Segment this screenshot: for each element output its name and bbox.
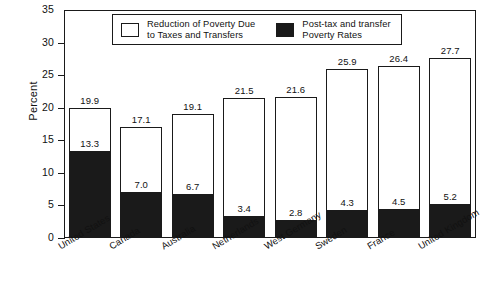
bar-total-value-label: 21.5 xyxy=(235,85,254,96)
y-tick-label: 10 xyxy=(42,166,54,178)
y-axis-title: Percent xyxy=(27,66,39,136)
filled-square-icon xyxy=(276,23,294,37)
legend-line-2: Poverty Rates xyxy=(302,30,390,41)
bar-posttax-value-label: 3.4 xyxy=(237,203,251,214)
open-square-icon xyxy=(121,23,139,37)
bar-posttax-value-label: 5.2 xyxy=(443,191,457,202)
bar-total-value-label: 21.6 xyxy=(286,84,305,95)
legend-line-2: to Taxes and Transfers xyxy=(147,30,255,41)
legend-line-1: Post-tax and transfer xyxy=(302,19,390,30)
bar-posttax-value-label: 13.3 xyxy=(80,138,99,149)
chart-legend: Reduction of Poverty Due to Taxes and Tr… xyxy=(112,14,402,45)
bar-total-value-label: 17.1 xyxy=(132,114,151,125)
y-tick-label: 35 xyxy=(42,3,54,15)
bar-group: 19.913.3 xyxy=(69,10,111,238)
y-tick-label: 5 xyxy=(48,198,54,210)
bar-posttax-value-label: 6.7 xyxy=(186,181,200,192)
bar-posttax-value-label: 2.8 xyxy=(289,207,303,218)
y-tick-label: 30 xyxy=(42,36,54,48)
bar-total-value-label: 27.7 xyxy=(441,45,460,56)
poverty-rates-bar-chart: Percent 05101520253035 19.913.317.17.019… xyxy=(0,0,488,303)
y-tick-label: 15 xyxy=(42,133,54,145)
y-tick-label: 20 xyxy=(42,101,54,113)
legend-line-1: Reduction of Poverty Due xyxy=(147,19,255,30)
bar-group: 27.75.2 xyxy=(429,10,471,238)
bar-posttax-value-label: 4.5 xyxy=(392,196,406,207)
legend-entry-posttax: Post-tax and transfer Poverty Rates xyxy=(255,15,390,44)
bar-posttax-value-label: 7.0 xyxy=(134,179,148,190)
y-tick-label: 25 xyxy=(42,68,54,80)
legend-entry-reduction: Reduction of Poverty Due to Taxes and Tr… xyxy=(113,15,255,44)
bar-total-value-label: 19.9 xyxy=(80,95,99,106)
legend-entry-posttax-label: Post-tax and transfer Poverty Rates xyxy=(302,19,390,40)
bar-total-value-label: 19.1 xyxy=(183,101,202,112)
legend-entry-reduction-label: Reduction of Poverty Due to Taxes and Tr… xyxy=(147,19,255,40)
bar-total-value-label: 25.9 xyxy=(338,56,357,67)
bar-posttax-value-label: 4.3 xyxy=(340,197,354,208)
x-axis-labels: United StatesCanadaAustraliaNetherlandsW… xyxy=(0,238,488,303)
bar-total-value-label: 26.4 xyxy=(389,53,408,64)
